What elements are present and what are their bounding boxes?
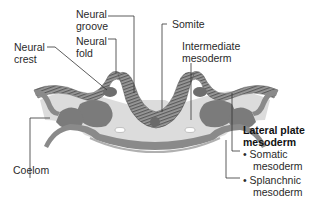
label-coelom: Coelom bbox=[13, 164, 49, 176]
label-splanchnic-mesoderm: • Splanchnic mesoderm bbox=[243, 174, 303, 198]
label-neural-groove: Neural groove bbox=[76, 8, 108, 32]
label-somite: Somite bbox=[172, 18, 205, 30]
aorta-left bbox=[115, 128, 125, 133]
label-neural-crest: Neural crest bbox=[14, 41, 45, 65]
aorta-right bbox=[185, 128, 195, 133]
label-lateral-plate-mesoderm: Lateral plate mesoderm bbox=[243, 124, 305, 148]
leader-neural-fold bbox=[108, 39, 116, 73]
label-neural-fold: Neural fold bbox=[76, 35, 107, 59]
label-somatic-mesoderm: • Somatic mesoderm bbox=[243, 148, 303, 172]
leader-splanchnic-mesoderm bbox=[226, 140, 240, 178]
label-intermediate-mesoderm: Intermediate mesoderm bbox=[182, 40, 240, 64]
leader-somite bbox=[162, 24, 167, 112]
neural-crest-right bbox=[193, 87, 207, 97]
notochord bbox=[150, 117, 160, 127]
